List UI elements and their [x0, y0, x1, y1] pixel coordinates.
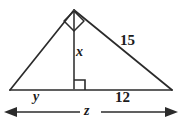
foot-right-angle-icon: [74, 80, 85, 90]
triangle-right-side: [74, 10, 172, 90]
label-hypotenuse-15: 15: [120, 33, 135, 48]
geometry-figure: 15 x y 12 z: [0, 0, 182, 127]
dimension-arrow-right-icon: [165, 107, 178, 117]
label-base-left-y: y: [33, 90, 39, 104]
dimension-arrow-left-icon: [4, 107, 17, 117]
label-dimension-z: z: [84, 104, 89, 118]
label-altitude-x: x: [76, 45, 83, 59]
label-base-right-12: 12: [115, 90, 130, 105]
